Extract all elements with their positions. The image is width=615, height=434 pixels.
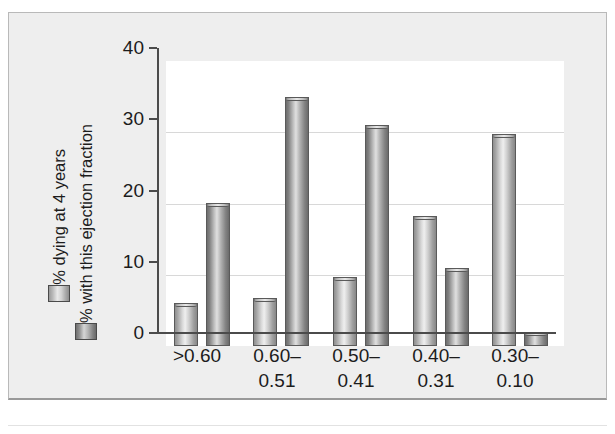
legend-swatch-icon-series-a: [48, 285, 70, 302]
legend-item-dying-at-4-years: % dying at 4 years: [48, 144, 70, 302]
bar-series-b: [285, 97, 309, 346]
bar-cap: [174, 303, 198, 307]
bar-series-b: [445, 268, 469, 346]
bar-cap: [253, 298, 277, 302]
bar-series-a: [253, 298, 277, 346]
bar-cap: [365, 125, 389, 129]
plot-area: [166, 61, 564, 346]
bar-cap: [206, 203, 230, 207]
legend-label: % with this ejection fraction: [78, 124, 95, 323]
x-category-label: 0.30– 0.10: [475, 343, 555, 393]
bar-series-a: [174, 303, 198, 346]
x-axis-line: [157, 332, 556, 334]
page-bottom-rule: [8, 425, 607, 426]
bar-cap: [333, 277, 357, 281]
bar-cap: [285, 97, 309, 101]
bar-cap: [413, 216, 437, 220]
bar-cap: [445, 268, 469, 272]
y-axis-line: [157, 48, 159, 334]
bar-series-b: [365, 125, 389, 346]
bar-series-b: [206, 203, 230, 346]
legend-label: % dying at 4 years: [51, 149, 68, 285]
bar-cap: [492, 134, 516, 138]
x-category-label: 0.40– 0.31: [396, 343, 476, 393]
x-category-label: 0.50– 0.41: [316, 343, 396, 393]
bar-series-a: [333, 277, 357, 346]
plot-canvas: [166, 61, 564, 346]
x-category-label: >0.60: [157, 343, 237, 368]
x-category-label: 0.60– 0.51: [237, 343, 317, 393]
legend-item-with-this-ejection-fraction: % with this ejection fraction: [75, 119, 97, 340]
bar-series-a: [413, 216, 437, 346]
bar-series-a: [492, 134, 516, 346]
legend-swatch-icon-series-b: [75, 323, 97, 340]
figure-panel: % dying at 4 years % with this ejection …: [8, 12, 607, 400]
